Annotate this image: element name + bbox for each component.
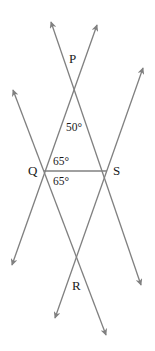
- point-label-R: R: [72, 278, 81, 293]
- angle-label-PQS-65: 65°: [53, 155, 70, 167]
- point-label-S: S: [113, 163, 120, 178]
- point-label-P: P: [69, 51, 76, 66]
- line-through-P-S: [51, 22, 141, 285]
- geometry-diagram: P Q S R 50° 65° 65°: [0, 0, 155, 351]
- angle-label-P-50: 50°: [66, 121, 83, 133]
- angle-label-SQR-65: 65°: [53, 175, 70, 187]
- point-label-Q: Q: [28, 163, 38, 178]
- line-through-P-Q: [12, 25, 97, 265]
